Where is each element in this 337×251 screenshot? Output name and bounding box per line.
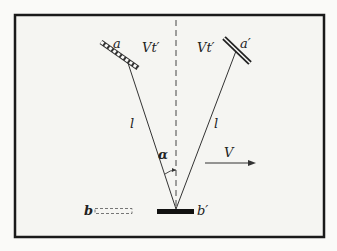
label-mirror-b-prime: b′ xyxy=(197,203,208,218)
label-angle-alpha: α xyxy=(158,147,168,162)
label-displacement-right: Vt′ xyxy=(197,40,215,55)
label-path-right: l xyxy=(214,116,218,131)
diagram-frame xyxy=(15,15,324,237)
label-velocity: V xyxy=(224,145,235,160)
label-mirror-a: a xyxy=(113,36,121,51)
diagram-canvas: a Vt′ Vt′ a′ l l α V b b′ xyxy=(0,0,337,251)
label-mirror-b: b xyxy=(84,203,93,218)
label-displacement-left: Vt′ xyxy=(142,40,160,55)
label-path-left: l xyxy=(130,116,134,131)
label-mirror-a-prime: a′ xyxy=(240,36,251,51)
mirror-b-prime xyxy=(157,209,194,214)
